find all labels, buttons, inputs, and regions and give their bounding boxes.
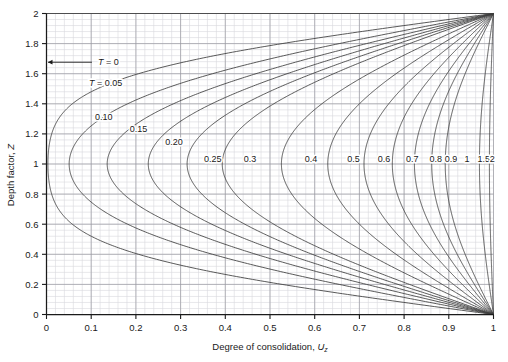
curve-label: 0.5 [347,154,360,164]
curve-label: 0.4 [305,154,318,164]
annotation-label: T = 0 [98,57,119,67]
x-tick-label: 0 [44,322,49,333]
x-tick-label: 0.5 [263,322,276,333]
curve-label: 2 [490,154,495,164]
y-tick-label: 0 [33,309,38,320]
curve-label: 0.9 [445,154,458,164]
y-tick-label: 0.4 [25,249,38,260]
x-tick-label: 0.3 [174,322,187,333]
x-tick-label: 0.9 [442,322,455,333]
y-tick-label: 1.4 [25,98,38,109]
x-tick-label: 0.8 [397,322,410,333]
curve-label: 1.5 [477,154,490,164]
curve-label: 0.8 [430,154,443,164]
curve-label: 1 [465,154,470,164]
y-tick-label: 1 [33,158,38,169]
x-tick-label: 0.4 [219,322,232,333]
y-tick-label: 0.6 [25,219,38,230]
y-tick-label: 0.8 [25,189,38,200]
x-tick-label: 1 [491,322,496,333]
curve-label: 0.15 [130,124,148,134]
curve-label: 0.6 [378,154,391,164]
curve-label: 0.20 [165,137,183,147]
y-tick-label: 1.8 [25,38,38,49]
y-tick-label: 1.2 [25,128,38,139]
curve-label: 0.7 [406,154,419,164]
y-tick-label: 2 [33,8,38,19]
y-tick-label: 0.2 [25,279,38,290]
x-axis-title: Degree of consolidation, Uz [212,341,328,353]
x-tick-label: 0.6 [308,322,321,333]
chart-canvas: 00.10.20.30.40.50.60.70.80.91 00.20.40.6… [0,0,508,362]
chart-background [0,0,508,362]
x-tick-label: 0.7 [353,322,366,333]
annotation-label: T = 0.05 [89,78,122,88]
curve-label: 0.3 [244,154,257,164]
y-tick-label: 1.6 [25,68,38,79]
curve-label: 0.10 [95,112,113,122]
x-tick-label: 0.1 [85,322,98,333]
consolidation-isochrone-chart: 00.10.20.30.40.50.60.70.80.91 00.20.40.6… [0,0,508,362]
x-tick-label: 0.2 [129,322,142,333]
y-axis-title: Depth factor, Z [5,143,16,207]
curve-label: 0.25 [204,154,222,164]
